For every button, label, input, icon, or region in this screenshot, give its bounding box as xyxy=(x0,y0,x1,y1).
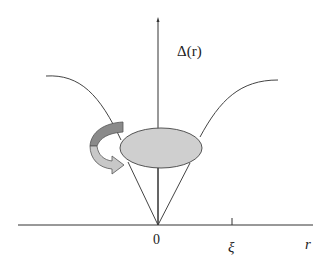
cone-line-left xyxy=(128,162,158,225)
cone-line-right xyxy=(158,163,190,225)
vortex-gap-diagram: Δ(r) 0 ξ r xyxy=(0,0,329,272)
gap-curve-right xyxy=(200,80,278,137)
diagram-canvas xyxy=(0,0,329,272)
delta-axis-arrowhead-icon xyxy=(157,17,160,22)
vortex-core-ellipse xyxy=(120,128,202,168)
y-axis-label: Δ(r) xyxy=(177,44,202,59)
xi-label: ξ xyxy=(228,240,234,255)
origin-label: 0 xyxy=(153,233,160,247)
rotation-arrow-icon xyxy=(90,146,124,174)
x-axis-label: r xyxy=(305,237,311,252)
